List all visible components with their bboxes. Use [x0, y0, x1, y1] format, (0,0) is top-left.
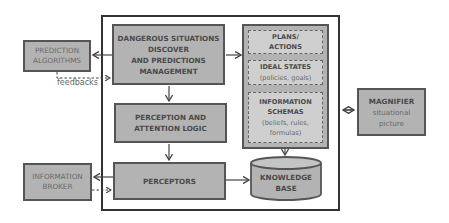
connectors [0, 0, 449, 223]
knowledge-base-label: KNOWLEDGE BASE [253, 169, 319, 197]
feedbacks-label: feedbacks [57, 78, 98, 87]
knowledge-base-label-2: BASE [275, 183, 296, 194]
knowledge-base-label-1: KNOWLEDGE [260, 172, 312, 183]
